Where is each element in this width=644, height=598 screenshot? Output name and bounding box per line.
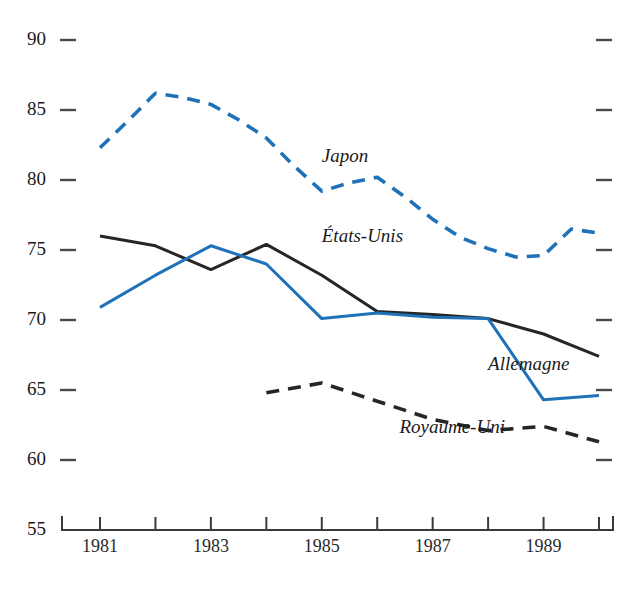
series-label-allemagne: Allemagne — [486, 353, 569, 374]
y-axis-tick-label: 90 — [27, 28, 46, 49]
y-axis-tick-label: 75 — [27, 238, 46, 259]
y-axis-tick-label: 80 — [27, 168, 46, 189]
series-label--tats-unis: États-Unis — [321, 225, 403, 246]
series-label-royaume-uni: Royaume-Uni — [398, 416, 505, 437]
line-chart: 5560657075808590 19811983198519871989 Ja… — [0, 0, 644, 598]
x-axis-line — [62, 517, 613, 530]
y-axis-tick-label: 85 — [27, 98, 46, 119]
series-label-japon: Japon — [322, 145, 368, 166]
y-axis-tick-label: 55 — [27, 518, 46, 539]
x-axis: 19811983198519871989 — [62, 517, 613, 556]
x-axis-tick-label: 1987 — [415, 536, 451, 556]
y-axis-tick-label: 65 — [27, 378, 46, 399]
chart-container: 5560657075808590 19811983198519871989 Ja… — [0, 0, 644, 598]
y-axis-tick-label: 60 — [27, 448, 46, 469]
series-line--tats-unis — [100, 236, 599, 356]
x-axis-tick-label: 1989 — [526, 536, 562, 556]
x-axis-tick-marks — [100, 517, 599, 530]
series-line-allemagne — [100, 246, 599, 400]
y-axis-tick-label: 70 — [27, 308, 46, 329]
x-axis-tick-label: 1983 — [193, 536, 229, 556]
y-axis-ticks-left — [60, 40, 76, 460]
x-axis-tick-label: 1981 — [82, 536, 118, 556]
x-axis-tick-labels: 19811983198519871989 — [82, 536, 562, 556]
y-axis-tick-labels: 5560657075808590 — [27, 28, 46, 539]
x-axis-tick-label: 1985 — [304, 536, 340, 556]
